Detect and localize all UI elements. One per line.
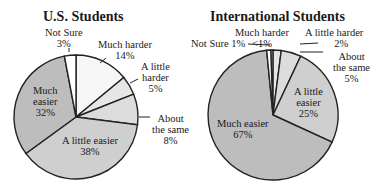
us-label-much-harder: Much harder14% xyxy=(98,39,152,61)
leader-line xyxy=(130,79,138,83)
us-label-little-easier: A little easier38% xyxy=(62,135,118,157)
intl-label-much-easier: Much easier67% xyxy=(217,118,269,140)
us-label-about-same: Aboutthe same8% xyxy=(152,113,189,146)
us-label-not-sure: Not Sure3% xyxy=(45,27,83,49)
us-chart-title: U.S. Students xyxy=(43,9,124,25)
intl-label-much-harder: Much harder<1% xyxy=(235,27,289,49)
intl-chart-title: International Students xyxy=(210,9,345,25)
intl-label-about-same: Aboutthe same5% xyxy=(333,51,370,84)
intl-label-little-harder: A little harder2% xyxy=(305,27,363,49)
us-label-much-easier: Mucheasier32% xyxy=(33,85,58,118)
intl-label-little-easier: A littleeasier25% xyxy=(294,86,323,119)
us-label-little-harder: A littleharder5% xyxy=(141,61,170,94)
